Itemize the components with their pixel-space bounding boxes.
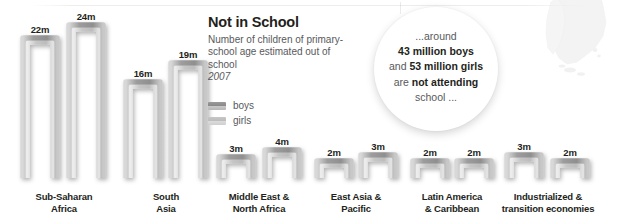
region-label-line1: Latin America [422,191,483,202]
callout-text: ...around 43 million boys and 53 million… [377,29,495,105]
bar-value-label-ind-boys: 3m [517,141,531,152]
legend-swatch-girls-icon [208,117,226,125]
region-label-line2: Africa [51,203,77,214]
page-title: Not in School [208,14,358,30]
page-subtitle: Number of children of primary-school age… [208,34,358,71]
callout-line-1: ...around [377,29,495,44]
infographic-canvas: 22m24m16m19m3m4m2m3m2m2m3m2m Sub-Saharan… [0,0,617,222]
legend-label-boys: boys [233,101,254,111]
legend-item-boys: boys [208,99,254,112]
callout-line-3: and 53 million girls [377,59,495,74]
legend-item-girls: girls [208,114,254,127]
region-label-line2: Pacific [341,203,371,214]
bar-value-label-ind-girls: 2m [563,147,577,158]
data-year: 2007 [208,71,358,83]
bar-value-label-lac-boys: 2m [423,147,437,158]
bar-value-label-sa-girls: 19m [179,49,198,60]
region-label-east-asia-pacific: East Asia &Pacific [331,191,381,214]
region-label-latin-america: Latin America& Caribbean [422,191,483,214]
region-label-line1: Industrialized & [514,191,582,202]
region-label-middle-east-n-africa: Middle East &North Africa [229,191,289,214]
region-label-line2: & Caribbean [425,203,479,214]
statistic-callout-bubble: ...around 43 million boys and 53 million… [374,7,498,131]
bar-value-label-ssa-girls: 24m [77,11,96,22]
region-label-line1: Sub-Saharan [36,191,93,202]
chart-legend: boys girls [208,99,254,129]
region-label-industrialized: Industrialized &transition economies [502,191,595,214]
region-label-line2: transition economies [502,203,595,214]
bar-value-label-eap-boys: 2m [327,147,341,158]
callout-line-5: school ... [377,90,495,105]
region-label-line2: Asia [156,203,175,214]
region-label-line1: Middle East & [229,191,289,202]
title-block: Not in School Number of children of prim… [208,14,358,84]
bar-value-label-mena-girls: 4m [275,136,289,147]
region-label-line1: South [153,191,179,202]
region-label-sub-saharan-africa: Sub-SaharanAfrica [36,191,93,214]
region-label-line2: North Africa [233,203,286,214]
legend-swatch-boys-icon [208,102,226,110]
bar-value-label-lac-girls: 2m [467,147,481,158]
callout-line-2: 43 million boys [377,44,495,59]
bar-value-label-ssa-boys: 22m [31,24,50,35]
bar-value-label-sa-boys: 16m [134,68,153,79]
region-label-south-asia: SouthAsia [153,191,179,214]
bar-value-label-eap-girls: 3m [371,141,385,152]
region-label-line1: East Asia & [331,191,381,202]
legend-label-girls: girls [233,116,251,126]
bar-value-label-mena-boys: 3m [229,143,243,154]
callout-line-4: are not attending [377,75,495,90]
